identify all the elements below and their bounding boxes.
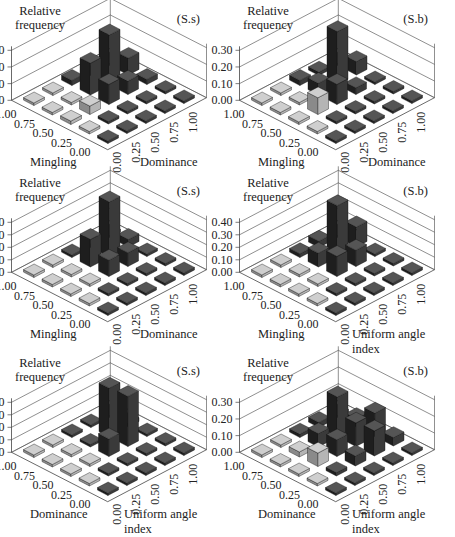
z-tick-label: 0.30 xyxy=(0,408,5,422)
bar xyxy=(80,52,101,95)
z-tick-label: 0.20 xyxy=(212,412,233,426)
right-axis-tick: 0.75 xyxy=(395,474,409,495)
left-axis-title: Mingling xyxy=(30,327,77,342)
bar xyxy=(42,102,63,116)
bar xyxy=(98,111,119,125)
bar xyxy=(345,472,366,486)
bar xyxy=(383,100,404,114)
bar xyxy=(155,433,176,447)
right-axis-tick: 1.00 xyxy=(186,284,200,305)
bar xyxy=(137,243,158,257)
bar xyxy=(61,92,82,106)
bar xyxy=(270,454,291,468)
bar xyxy=(252,264,273,278)
y-label-line2: frequency xyxy=(15,190,65,204)
bar xyxy=(43,254,64,268)
z-tick-label: 0.10 xyxy=(212,253,233,267)
z-tick-label: 0.10 xyxy=(0,253,5,267)
bar xyxy=(270,274,291,288)
bar xyxy=(252,444,273,458)
chart-panel-3: 0.000.100.200.300.400.000.000.250.250.50… xyxy=(0,172,228,349)
z-tick-label: 0.10 xyxy=(0,77,5,91)
left-axis-tick: 0.75 xyxy=(14,117,35,131)
bar xyxy=(383,452,404,466)
bar xyxy=(80,273,101,287)
bar xyxy=(345,273,366,287)
left-axis-tick: 0.50 xyxy=(261,478,282,492)
z-tick-label: 0.00 xyxy=(0,445,5,459)
bar xyxy=(62,70,83,86)
z-tick-label: 0.30 xyxy=(212,228,233,242)
right-axis-tick: 1.00 xyxy=(186,112,200,133)
left-axis-tick: 1.00 xyxy=(0,459,17,473)
z-tick-label: 0.10 xyxy=(212,429,233,443)
left-axis-tick: 0.75 xyxy=(14,469,35,483)
bar xyxy=(80,229,101,268)
bar xyxy=(307,473,328,487)
left-axis-tick: 0.25 xyxy=(279,308,300,322)
chart-panel-6: 0.000.100.200.300.000.000.250.250.500.50… xyxy=(228,352,455,529)
z-tick-label: 0.00 xyxy=(212,265,233,279)
bar xyxy=(289,441,310,457)
bar xyxy=(346,51,367,75)
bar xyxy=(290,423,311,437)
z-tick-label: 0.00 xyxy=(0,93,5,107)
bar xyxy=(345,445,366,466)
right-axis-tick: 0.75 xyxy=(167,474,181,495)
bar xyxy=(402,262,423,276)
y-label-line2: frequency xyxy=(243,18,293,32)
bar xyxy=(271,254,292,268)
bar xyxy=(24,92,45,106)
bar xyxy=(364,462,385,476)
left-axis-tick: 1.00 xyxy=(0,107,17,121)
bar xyxy=(326,111,347,125)
bar xyxy=(289,264,310,278)
bar xyxy=(118,242,139,267)
y-label-line2: frequency xyxy=(243,190,293,204)
bar xyxy=(136,282,157,296)
bar xyxy=(99,74,120,105)
bar xyxy=(155,452,176,466)
left-axis-tick: 0.25 xyxy=(279,488,300,502)
z-tick-label: 0.40 xyxy=(0,215,5,229)
bar xyxy=(62,244,83,258)
bar xyxy=(98,130,119,144)
left-axis-title: Mingling xyxy=(258,155,305,170)
bar xyxy=(136,91,157,105)
left-axis-tick: 0.50 xyxy=(261,298,282,312)
bar xyxy=(117,472,138,486)
left-axis-tick: 1.00 xyxy=(0,279,17,293)
right-axis-title: Dominance xyxy=(368,155,426,170)
left-axis-tick: 0.50 xyxy=(33,126,54,140)
bar xyxy=(290,70,311,86)
z-tick-label: 0.20 xyxy=(0,60,5,74)
bar xyxy=(327,246,348,277)
bar xyxy=(346,412,367,446)
bar xyxy=(62,424,83,438)
bar xyxy=(308,273,329,287)
bar xyxy=(326,130,347,144)
panel-tag: (S.b) xyxy=(403,364,428,379)
y-axis-label: Relativefrequency xyxy=(238,176,298,204)
bar xyxy=(270,102,291,116)
bar xyxy=(118,70,139,94)
right-axis-tick: 0.00 xyxy=(338,324,352,345)
bar xyxy=(289,92,310,106)
right-axis-tick: 0.75 xyxy=(395,294,409,315)
panel-tag: (S.s) xyxy=(177,184,200,199)
bar xyxy=(326,283,347,297)
bar xyxy=(117,453,138,467)
z-tick-label: 0.20 xyxy=(0,240,5,254)
bar xyxy=(136,462,157,476)
bar xyxy=(79,473,100,487)
bar xyxy=(345,292,366,306)
bar xyxy=(383,81,404,95)
bar xyxy=(326,462,347,476)
left-axis-title: Mingling xyxy=(30,155,77,170)
bar xyxy=(79,121,100,135)
z-tick-label: 0.30 xyxy=(0,228,5,242)
right-axis-title: Uniform angle index xyxy=(352,507,455,537)
z-tick-label: 0.30 xyxy=(212,395,233,409)
bar xyxy=(80,434,101,448)
